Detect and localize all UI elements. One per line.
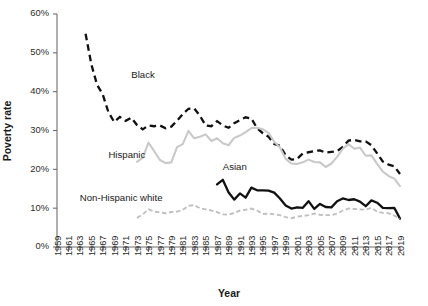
x-tick-label: 1971 xyxy=(121,236,131,256)
x-tick-label: 1999 xyxy=(281,236,291,256)
poverty-rate-chart: 0%10%20%30%40%50%60% 1959196119631965196… xyxy=(0,0,428,306)
x-tick-label: 1959 xyxy=(53,236,63,256)
x-tick-label: 1965 xyxy=(87,236,97,256)
series-line-non-hispanic-white xyxy=(137,205,400,219)
y-tick-label: 30% xyxy=(30,124,49,135)
x-tick-label: 2013 xyxy=(361,236,371,256)
chart-svg: 0%10%20%30%40%50%60% 1959196119631965196… xyxy=(0,0,428,306)
x-axis-title: Year xyxy=(218,287,240,299)
y-tick-label: 0% xyxy=(35,240,49,251)
x-tick-label: 1995 xyxy=(258,236,268,256)
series-label-asian: Asian xyxy=(223,161,247,172)
series-label-non-hispanic-white: Non-Hispanic white xyxy=(80,192,163,203)
x-tick-label: 1983 xyxy=(190,236,200,256)
x-tick-label: 2019 xyxy=(396,236,406,256)
y-tick-label: 10% xyxy=(30,202,49,213)
x-tick-label: 2011 xyxy=(350,236,360,256)
x-tick-label: 2017 xyxy=(384,236,394,256)
x-tick-label: 2009 xyxy=(338,236,348,256)
x-tick-label: 1967 xyxy=(98,236,108,256)
x-tick-label: 2007 xyxy=(327,236,337,256)
x-tick-label: 2003 xyxy=(304,236,314,256)
x-tick-label: 1977 xyxy=(156,236,166,256)
x-tick-label: 1979 xyxy=(167,236,177,256)
series-labels: BlackHispanicAsianNon-Hispanic white xyxy=(80,69,247,203)
x-tick-label: 1997 xyxy=(270,236,280,256)
x-tick-label: 1987 xyxy=(213,236,223,256)
x-tick-label: 1961 xyxy=(64,236,74,256)
y-tick-label: 20% xyxy=(30,163,49,174)
y-axis: 0%10%20%30%40%50%60% xyxy=(30,7,57,251)
x-tick-label: 2015 xyxy=(373,236,383,256)
x-tick-label: 2005 xyxy=(316,236,326,256)
y-tick-label: 40% xyxy=(30,85,49,96)
x-tick-label: 1963 xyxy=(75,236,85,256)
series-line-asian xyxy=(217,180,400,219)
x-axis: 1959196119631965196719691971197319751977… xyxy=(53,236,406,256)
y-axis-title: Poverty rate xyxy=(1,100,13,161)
x-tick-label: 1975 xyxy=(144,236,154,256)
x-tick-label: 1985 xyxy=(201,236,211,256)
series-label-hispanic: Hispanic xyxy=(108,149,145,160)
x-tick-label: 1969 xyxy=(110,236,120,256)
x-tick-label: 1991 xyxy=(236,236,246,256)
x-tick-label: 1973 xyxy=(133,236,143,256)
series-label-black: Black xyxy=(131,69,155,80)
x-tick-label: 1989 xyxy=(224,236,234,256)
y-tick-label: 50% xyxy=(30,46,49,57)
x-tick-label: 1981 xyxy=(178,236,188,256)
x-tick-label: 2001 xyxy=(293,236,303,256)
x-tick-label: 1993 xyxy=(247,236,257,256)
y-tick-label: 60% xyxy=(30,7,49,18)
